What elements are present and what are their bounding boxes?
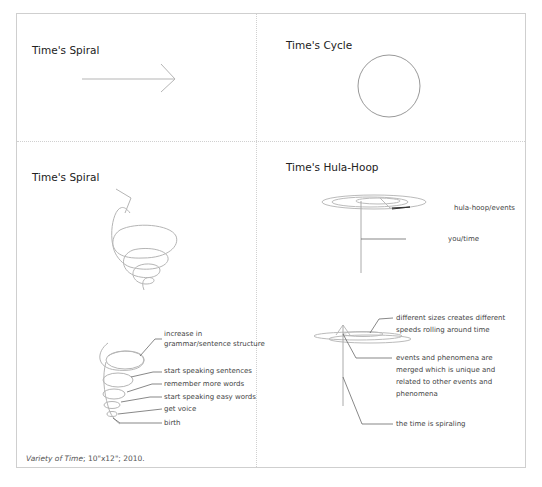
caption-details: ; 10"x12"; 2010.	[83, 454, 145, 463]
label-time-spiraling: the time is spiraling	[396, 419, 466, 429]
label-remember-more-words: remember more words	[164, 379, 244, 389]
label-you-time: you/time	[448, 234, 479, 244]
label-hula-hoop-events: hula-hoop/events	[454, 203, 515, 213]
label-grammar-structure: grammar/sentence structure	[164, 339, 265, 349]
label-get-voice: get voice	[164, 404, 196, 414]
label-merged-1: events and phenomena are	[396, 353, 493, 363]
label-increase-in: increase in	[164, 329, 202, 339]
arrow-right-icon	[82, 64, 175, 92]
spiral-icon	[112, 189, 177, 290]
hula-hoop-icon	[322, 195, 426, 273]
label-merged-4: phenomena	[396, 389, 438, 399]
label-different-sizes-1: different sizes creates different	[396, 313, 505, 323]
label-start-speaking-sentences: start speaking sentences	[164, 366, 252, 376]
figure-caption: Variety of Time; 10"x12"; 2010.	[26, 454, 145, 463]
hoops-leader-lines	[343, 318, 393, 424]
label-different-sizes-2: speeds rolling around time	[396, 325, 490, 335]
cycle-circle-icon	[358, 55, 420, 117]
label-merged-2: merged which is unique and	[396, 365, 495, 375]
label-birth: birth	[164, 418, 180, 428]
caption-title: Variety of Time	[26, 454, 83, 463]
label-start-speaking-easy-words: start speaking easy words	[164, 392, 256, 402]
label-merged-3: related to other events and	[396, 377, 492, 387]
